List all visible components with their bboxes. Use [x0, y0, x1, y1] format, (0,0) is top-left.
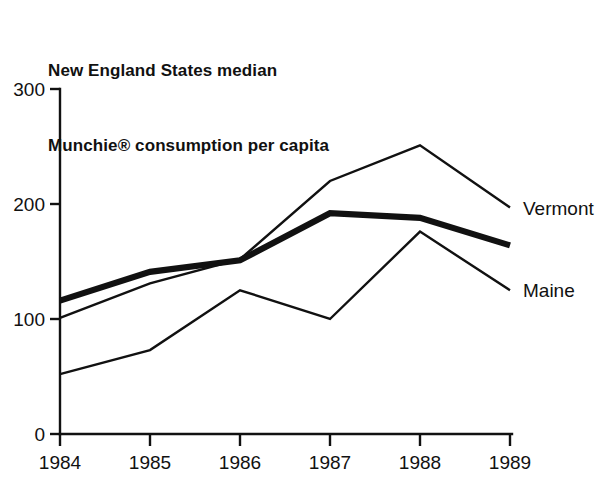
series-line-maine [60, 232, 510, 375]
series-line-median [60, 213, 510, 300]
x-tick-label-1988: 1988 [399, 452, 441, 473]
y-tick-label-0: 0 [34, 424, 45, 445]
series-label-vermont: Vermont [523, 198, 594, 219]
y-tick-label-100: 100 [13, 309, 45, 330]
x-tick-label-1984: 1984 [39, 452, 82, 473]
y-tick-label-200: 200 [13, 194, 45, 215]
y-tick-label-300: 300 [13, 79, 45, 100]
x-tick-label-1985: 1985 [129, 452, 171, 473]
series-label-maine: Maine [523, 280, 575, 301]
chart-container: New England States median Munchie® consu… [0, 0, 600, 477]
x-tick-label-1987: 1987 [309, 452, 351, 473]
series-line-vermont [60, 145, 510, 318]
x-tick-label-1986: 1986 [219, 452, 261, 473]
x-tick-label-1989: 1989 [489, 452, 531, 473]
line-chart-plot: 300 200 100 0 1984 1985 1986 1987 1988 1… [0, 0, 600, 477]
